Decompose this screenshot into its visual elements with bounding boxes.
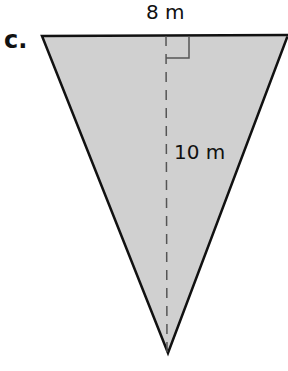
- triangle-figure: [0, 0, 288, 371]
- triangle-shape: [42, 35, 288, 353]
- height-label: 10 m: [174, 140, 225, 164]
